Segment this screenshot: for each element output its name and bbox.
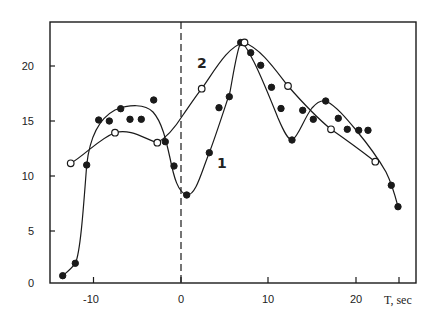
x-tick-label: 10 bbox=[262, 293, 274, 305]
y-tick-label: 15 bbox=[22, 115, 34, 127]
curve-2-label: 2 bbox=[197, 55, 207, 71]
x-axis bbox=[94, 277, 400, 283]
x-tick-label: 0 bbox=[178, 293, 184, 305]
y-tick-label: 0 bbox=[28, 277, 34, 289]
y-axis bbox=[50, 66, 55, 231]
x-tick-labels: -10 0 10 20 bbox=[83, 293, 362, 305]
x-tick-label: 20 bbox=[350, 293, 362, 305]
y-tick-label: 10 bbox=[22, 170, 34, 182]
curve-1-label: 1 bbox=[217, 155, 227, 171]
x-axis-title: T, sec bbox=[384, 293, 412, 307]
plot-frame bbox=[50, 22, 416, 283]
curve-1-line bbox=[63, 43, 398, 276]
y-tick-labels: 20 15 10 5 0 bbox=[22, 60, 34, 289]
x-tick-label: -10 bbox=[83, 293, 99, 305]
y-tick-label: 20 bbox=[22, 60, 34, 72]
chart: 20 15 10 5 0 -10 0 10 20 T, sec bbox=[0, 0, 435, 320]
series-1-markers bbox=[60, 39, 402, 279]
y-tick-label: 5 bbox=[28, 225, 34, 237]
